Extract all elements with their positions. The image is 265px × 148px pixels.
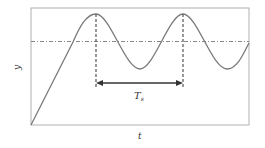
response-curve <box>31 14 249 125</box>
oscillation-diagram: Ts y t <box>0 0 265 148</box>
period-label: Ts <box>134 90 144 102</box>
x-axis-label: t <box>138 131 142 141</box>
plot-frame <box>31 8 249 125</box>
y-axis-label: y <box>12 64 22 71</box>
arrowhead-right-icon <box>176 80 183 86</box>
arrowhead-left-icon <box>96 80 103 86</box>
